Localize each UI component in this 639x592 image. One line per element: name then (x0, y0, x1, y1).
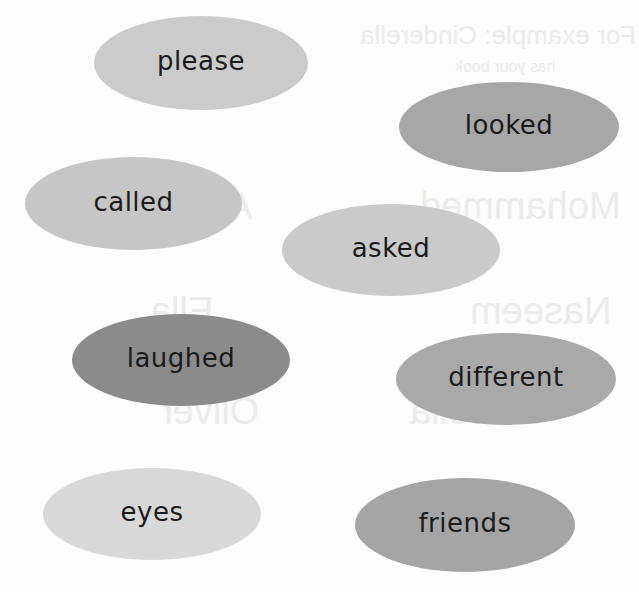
word-oval-different: different (396, 333, 616, 425)
word-oval-looked: looked (399, 82, 619, 172)
word-oval-asked: asked (282, 204, 500, 296)
word-label: looked (465, 110, 554, 140)
word-label: laughed (127, 343, 236, 373)
word-label: please (157, 46, 245, 76)
word-oval-please: please (94, 16, 308, 110)
showthrough-name-naseem: Naseem (470, 290, 612, 333)
word-label: asked (352, 233, 431, 263)
word-label: different (448, 362, 563, 392)
showthrough-line2: has your book (455, 58, 556, 76)
word-oval-eyes: eyes (43, 468, 261, 560)
word-label: called (93, 187, 173, 217)
word-oval-laughed: laughed (72, 314, 290, 406)
word-label: eyes (121, 497, 184, 527)
word-label: friends (418, 508, 511, 538)
word-oval-friends: friends (355, 478, 575, 572)
word-oval-called: called (25, 157, 242, 250)
showthrough-line1: For example: Cinderella (360, 20, 636, 51)
